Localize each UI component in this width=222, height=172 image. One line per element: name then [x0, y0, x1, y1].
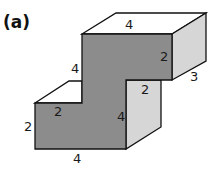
dim-step-right: 2 — [141, 83, 149, 96]
dim-upper-left-height: 4 — [71, 62, 79, 75]
dim-bottom-width: 4 — [73, 152, 81, 165]
z-prism-diagram — [0, 0, 222, 172]
dim-step-left: 2 — [54, 105, 62, 118]
lower-top-face — [35, 81, 82, 103]
dim-lower-left-height: 2 — [24, 120, 32, 133]
dim-depth: 3 — [190, 70, 198, 83]
dim-middle-height: 4 — [117, 110, 125, 123]
dim-top-width: 4 — [125, 18, 133, 31]
dim-top-right-height: 2 — [160, 50, 168, 63]
